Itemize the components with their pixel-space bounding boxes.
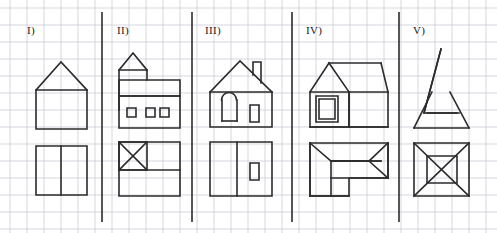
elevation-window [250, 105, 259, 122]
plan-small-window [250, 163, 259, 180]
plan-diagonal-right-top [369, 143, 388, 161]
elevation-window-2 [146, 108, 155, 117]
elevation-base-left [414, 92, 432, 128]
panel-II [119, 53, 180, 196]
elevation-window-inner [319, 99, 335, 119]
elevation-front-gable [310, 63, 349, 92]
elevation-window-1 [127, 108, 136, 117]
elevation-spire [424, 49, 459, 113]
elevation-window-3 [160, 108, 169, 117]
panel-label-IV: IV) [306, 24, 322, 36]
panel-IV [310, 63, 388, 196]
elevation-base-right [450, 92, 469, 128]
plan-outline [310, 143, 388, 196]
panel-I [36, 62, 87, 195]
plan-outline [210, 142, 272, 196]
panel-label-I: I) [27, 24, 35, 36]
elevation-roof [210, 61, 272, 92]
elevation-right-roof-edge [381, 63, 388, 92]
elevation-main-body [119, 96, 180, 128]
elevation-main-roof-band [119, 80, 180, 96]
elevation-body [210, 92, 272, 127]
panel-V [414, 49, 469, 196]
elevation-side-face [349, 92, 388, 127]
elevation-tower-roof [119, 53, 147, 70]
plan-diagonal-right-bottom [369, 161, 388, 178]
panel-III [210, 61, 272, 196]
panel-label-II: II) [117, 24, 129, 36]
panel-label-III: III) [205, 24, 221, 36]
elevation-tower-body [119, 70, 147, 110]
figure-canvas: I) II) III) IV) V) [0, 0, 497, 233]
elevation-body [36, 90, 87, 129]
panel-label-V: V) [413, 24, 425, 36]
plan-diagonal-top-left [310, 143, 331, 161]
elevation-arched-door-arc [222, 93, 237, 100]
elevation-roof [36, 62, 87, 90]
